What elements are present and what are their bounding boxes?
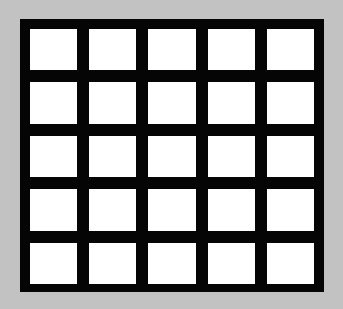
grid-cell-r5c5 [267, 243, 314, 284]
grid-cell-r1c5 [267, 29, 314, 70]
grid-pattern [20, 19, 324, 292]
grid-cell-r3c1 [30, 136, 77, 177]
grid-cell-r4c5 [267, 189, 314, 230]
grid-cell-r4c1 [30, 189, 77, 230]
canvas-background [0, 0, 343, 309]
grid-cell-r1c2 [89, 29, 136, 70]
grid-cell-r4c4 [208, 189, 255, 230]
grid-cell-r3c2 [89, 136, 136, 177]
grid-cell-r2c1 [30, 82, 77, 123]
grid-cell-r5c1 [30, 243, 77, 284]
grid-cell-r5c4 [208, 243, 255, 284]
grid-cell-r2c2 [89, 82, 136, 123]
grid-cell-r3c3 [148, 136, 195, 177]
grid-cell-r3c4 [208, 136, 255, 177]
grid-cell-r4c2 [89, 189, 136, 230]
grid-cell-r1c3 [148, 29, 195, 70]
grid-cell-r1c4 [208, 29, 255, 70]
grid-cell-r2c5 [267, 82, 314, 123]
grid-cell-r5c2 [89, 243, 136, 284]
grid-cell-r2c4 [208, 82, 255, 123]
grid-cell-r2c3 [148, 82, 195, 123]
grid-cell-r1c1 [30, 29, 77, 70]
grid-cell-r5c3 [148, 243, 195, 284]
grid-cell-r4c3 [148, 189, 195, 230]
grid-cell-r3c5 [267, 136, 314, 177]
